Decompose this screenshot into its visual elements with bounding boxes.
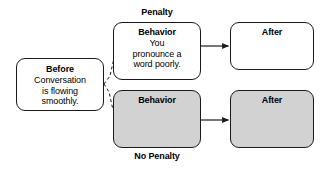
- caption-penalty: Penalty: [113, 7, 201, 17]
- node-after-no-penalty-title: After: [231, 95, 313, 106]
- node-behavior-penalty-body: You pronounce a word poorly.: [114, 38, 200, 70]
- node-behavior-no-penalty: Behavior: [113, 90, 201, 148]
- node-behavior-penalty: Behavior You pronounce a word poorly.: [113, 22, 201, 80]
- caption-no-penalty: No Penalty: [113, 151, 201, 161]
- node-behavior-penalty-body-line: word poorly.: [114, 59, 200, 70]
- node-behavior-penalty-body-line: pronounce a: [114, 49, 200, 60]
- node-behavior-no-penalty-title: Behavior: [114, 95, 200, 106]
- node-before: Before Conversation is flowing smoothly.: [16, 58, 104, 111]
- node-after-no-penalty: After: [230, 90, 314, 148]
- node-after-penalty-title: After: [231, 27, 313, 38]
- flowchart-diagram: Penalty Before Conversation is flowing s…: [0, 0, 323, 172]
- node-behavior-penalty-body-line: You: [114, 38, 200, 49]
- node-behavior-penalty-title: Behavior: [114, 27, 200, 38]
- node-before-title: Before: [17, 64, 103, 75]
- node-before-body-line: Conversation: [17, 75, 103, 86]
- node-before-body: Conversation is flowing smoothly.: [17, 75, 103, 107]
- node-before-body-line: is flowing: [17, 86, 103, 97]
- edge-before-to-behavior-no-penalty: [104, 84, 113, 110]
- node-before-body-line: smoothly.: [17, 96, 103, 107]
- node-after-penalty: After: [230, 22, 314, 70]
